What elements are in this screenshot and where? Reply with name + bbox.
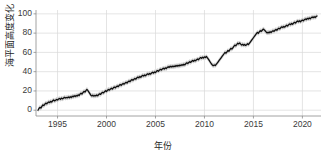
sea-level-chart-figure: 020406080100 199520002005201020152020 海平… — [0, 0, 326, 160]
y-axis-label: 海平面高度变化（mm） — [3, 0, 16, 74]
y-tick-80: 80 — [23, 27, 33, 37]
y-axis-tick-labels: 020406080100 — [18, 8, 32, 114]
x-tick-1995: 1995 — [48, 119, 67, 129]
uncertainty-band — [38, 14, 317, 113]
x-axis-tick-labels: 199520002005201020152020 — [48, 119, 312, 129]
y-tick-0: 0 — [27, 104, 32, 114]
x-axis-label: 年份 — [0, 139, 326, 152]
x-tick-2010: 2010 — [195, 119, 214, 129]
chart-plot-area: 020406080100 199520002005201020152020 — [0, 0, 326, 160]
x-tick-2020: 2020 — [293, 119, 312, 129]
x-tick-2005: 2005 — [146, 119, 165, 129]
gridlines-group — [36, 10, 321, 116]
y-tick-20: 20 — [23, 85, 33, 95]
x-tick-2000: 2000 — [97, 119, 116, 129]
y-tick-100: 100 — [18, 8, 32, 18]
y-tick-60: 60 — [23, 47, 33, 57]
y-tick-40: 40 — [23, 66, 33, 76]
x-tick-2015: 2015 — [244, 119, 263, 129]
